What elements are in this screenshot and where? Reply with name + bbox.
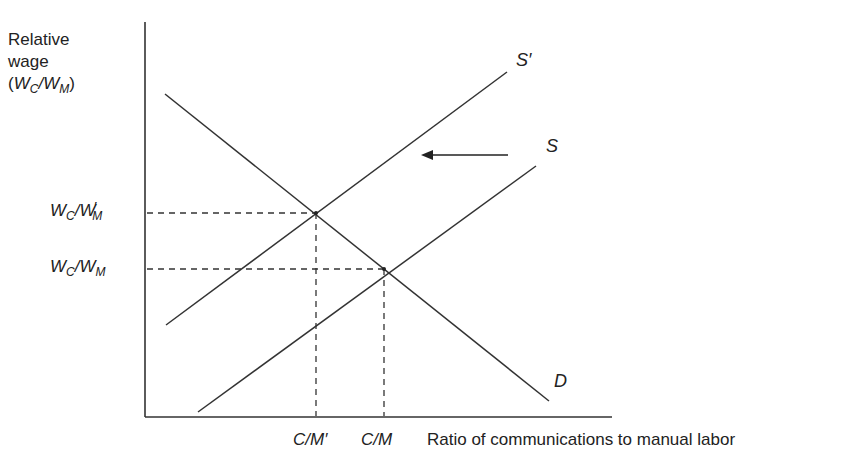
supply-curve (198, 166, 536, 412)
y-axis-title: Relative wage (WC/WM) (8, 29, 75, 100)
demand-curve (165, 94, 549, 401)
y-axis-title-line2: wage (8, 51, 75, 73)
y-tick-label-shifted-wage: WC/W′M (50, 201, 102, 223)
x-tick-label-cm: C/M (361, 430, 392, 450)
supply-shifted-label: S′ (516, 50, 531, 71)
x-axis-title: Ratio of communications to manual labor (427, 430, 735, 450)
diagram-canvas (0, 0, 859, 471)
shift-arrow-icon (421, 150, 508, 160)
equilibrium-point-shifted (314, 211, 318, 215)
y-axis-title-line3: (WC/WM) (8, 73, 75, 100)
supply-curve-shifted (166, 72, 507, 325)
x-tick-label-cm-prime: C/M′ (293, 430, 327, 450)
y-tick-label-original-wage: WC/WM (50, 257, 106, 279)
equilibrium-point-original (382, 267, 386, 271)
demand-label: D (554, 371, 567, 392)
supply-label: S (546, 136, 558, 157)
y-axis-title-line1: Relative (8, 29, 75, 51)
